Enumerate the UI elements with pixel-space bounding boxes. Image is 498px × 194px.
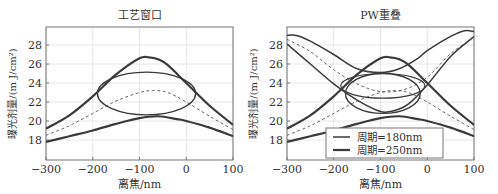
x-tick-label: 100: [464, 163, 485, 176]
x-tick-label: −100: [365, 163, 395, 176]
y-tick-label: 28: [28, 39, 42, 52]
x-axis-label: 离焦/nm: [118, 177, 162, 191]
y-tick-label: 22: [28, 96, 42, 109]
y-tick-label: 18: [28, 134, 42, 147]
x-axis-label: 离焦/nm: [359, 177, 403, 191]
y-tick-label: 24: [269, 77, 283, 90]
chart-title: 工艺窗口: [118, 8, 162, 22]
figure: −300−200−1000100182022242628工艺窗口离焦/nm曝光剂…: [0, 0, 498, 194]
legend-label: 周期=180nm: [357, 131, 423, 143]
x-tick-label: −200: [78, 163, 108, 176]
process-window-ellipse: [97, 72, 195, 115]
x-tick-label: 0: [424, 163, 431, 176]
y-tick-label: 20: [28, 115, 42, 128]
y-tick-label: 24: [28, 77, 42, 90]
y-tick-label: 18: [269, 134, 283, 147]
y-tick-label: 26: [269, 58, 283, 71]
chart-panel-1: −300−200−1000100182022242628工艺窗口离焦/nm曝光剂…: [6, 8, 244, 191]
y-axis-label: 曝光剂量/(m J/cm²): [6, 48, 18, 138]
y-tick-label: 26: [28, 58, 42, 71]
x-tick-label: 0: [183, 163, 190, 176]
legend-label: 周期=250nm: [357, 144, 423, 156]
y-axis-label: 曝光剂量/(m J/cm²): [247, 48, 259, 138]
chart-panel-2: −300−200−1000100182022242628PW重叠离焦/nm曝光剂…: [247, 8, 485, 191]
chart-title: PW重叠: [360, 8, 401, 22]
y-tick-label: 28: [269, 39, 283, 52]
x-tick-label: −100: [124, 163, 154, 176]
process-window-ellipse: [341, 74, 425, 99]
x-tick-label: 100: [223, 163, 244, 176]
y-tick-label: 22: [269, 96, 283, 109]
x-tick-label: −300: [31, 163, 61, 176]
x-tick-label: −200: [319, 163, 349, 176]
y-tick-label: 20: [269, 115, 283, 128]
legend: 周期=180nm周期=250nm: [326, 128, 443, 158]
x-tick-label: −300: [272, 163, 302, 176]
process-window-ellipse: [345, 74, 420, 114]
